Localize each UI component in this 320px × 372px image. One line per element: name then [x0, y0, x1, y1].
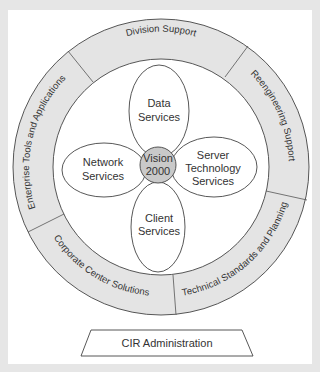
- petal-network-services[interactable]: Network Services: [62, 143, 146, 197]
- petal-client-services[interactable]: Client Services: [131, 182, 185, 272]
- petal-server-technology-services[interactable]: Server Technology Services: [171, 137, 257, 197]
- petal-label-client-2: Services: [138, 225, 181, 237]
- petal-label-server-3: Services: [192, 175, 235, 187]
- petal-label-data-1: Data: [147, 97, 171, 109]
- base-cir-administration[interactable]: CIR Administration: [81, 330, 253, 356]
- petal-label-network-2: Services: [82, 170, 125, 182]
- base-label: CIR Administration: [121, 337, 212, 349]
- hub-label-1: Vision: [143, 152, 173, 164]
- petal-label-network-1: Network: [83, 156, 124, 168]
- petal-label-data-2: Services: [138, 111, 181, 123]
- hub-vision-2000[interactable]: Vision 2000: [140, 147, 176, 183]
- petal-data-services[interactable]: Data Services: [129, 65, 189, 157]
- hub-label-2: 2000: [146, 165, 170, 177]
- petal-label-server-2: Technology: [185, 162, 241, 174]
- petal-label-client-1: Client: [145, 212, 173, 224]
- vision-2000-diagram: Division Support Reengineering Support T…: [0, 0, 320, 372]
- petal-label-server-1: Server: [197, 149, 230, 161]
